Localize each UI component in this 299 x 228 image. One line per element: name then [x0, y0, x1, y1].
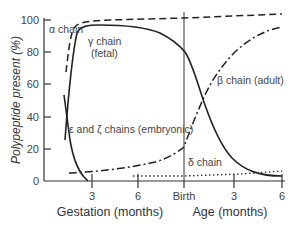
y-tick-80: 80: [27, 46, 39, 58]
y-ticks: [44, 20, 51, 149]
x-axis-title-gestation: Gestation (months): [57, 205, 163, 219]
x-tick-gest-3: 3: [89, 190, 95, 202]
x-tick-gest-6: 6: [135, 190, 141, 202]
label-delta-chain: δ chain: [188, 156, 222, 168]
y-tick-100: 100: [21, 14, 39, 26]
x-axis-title-age: Age (months): [192, 205, 267, 219]
y-tick-40: 40: [27, 111, 39, 123]
x-tick-birth: Birth: [173, 190, 196, 202]
label-epsilon-zeta-chains: ε and ζ chains (embryonic): [69, 123, 193, 135]
hemoglobin-chain-chart: 100 80 60 40 20 0 Polypeptide present (%…: [0, 0, 299, 228]
label-gamma-fetal: (fetal): [91, 47, 118, 59]
x-tick-age-3: 3: [231, 190, 237, 202]
label-beta-chain: β chain (adult): [217, 74, 284, 86]
y-tick-60: 60: [27, 78, 39, 90]
x-tick-age-6: 6: [279, 190, 285, 202]
y-axis-title: Polypeptide present (%): [9, 36, 23, 164]
label-alpha-chain: α chain: [49, 23, 83, 35]
y-tick-20: 20: [27, 143, 39, 155]
y-tick-0: 0: [33, 175, 39, 187]
label-gamma-chain: γ chain: [88, 35, 121, 47]
